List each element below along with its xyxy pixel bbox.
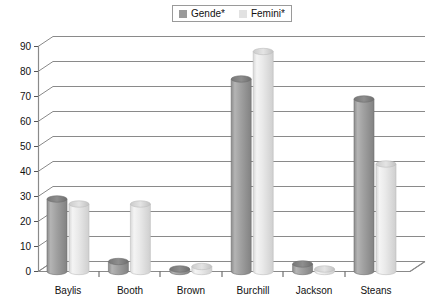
bar-jackson-series-1 — [293, 261, 313, 275]
y-tick-80: 80 — [20, 66, 32, 77]
y-tick-90: 90 — [20, 41, 32, 52]
bar-brown-series-2 — [192, 263, 212, 274]
bar-steans-series-2 — [376, 161, 396, 275]
bar-brown-series-1 — [170, 266, 190, 275]
y-tick-30: 30 — [20, 191, 32, 202]
bar-baylis-series-1 — [47, 196, 67, 275]
bar-booth-series-1 — [108, 258, 128, 274]
x-axis-category-labels: Baylis Booth Brown Burchill Jackson Stea… — [55, 285, 392, 296]
bar-chart: Gende* Femini* — [0, 0, 442, 307]
chart-plot-area: 0 10 20 30 40 50 60 70 80 90 Baylis Boot… — [0, 0, 442, 307]
y-tick-0: 0 — [25, 266, 31, 277]
x-label-booth: Booth — [117, 285, 143, 296]
bar-booth-series-2 — [130, 201, 150, 275]
x-label-brown: Brown — [177, 285, 205, 296]
y-tick-50: 50 — [20, 141, 32, 152]
bar-burchill-series-1 — [231, 76, 251, 275]
y-tick-marks — [34, 47, 38, 272]
y-tick-10: 10 — [20, 241, 32, 252]
y-tick-40: 40 — [20, 166, 32, 177]
bar-jackson-series-2 — [315, 266, 335, 275]
bar-baylis-series-2 — [69, 201, 89, 275]
y-tick-60: 60 — [20, 116, 32, 127]
y-axis-tick-labels: 0 10 20 30 40 50 60 70 80 90 — [20, 41, 32, 277]
x-label-burchill: Burchill — [237, 285, 270, 296]
y-tick-70: 70 — [20, 91, 32, 102]
y-tick-20: 20 — [20, 216, 32, 227]
bar-burchill-series-2 — [253, 48, 273, 274]
bar-steans-series-1 — [354, 96, 374, 275]
x-label-baylis: Baylis — [55, 285, 82, 296]
x-label-jackson: Jackson — [296, 285, 333, 296]
x-label-steans: Steans — [360, 285, 391, 296]
